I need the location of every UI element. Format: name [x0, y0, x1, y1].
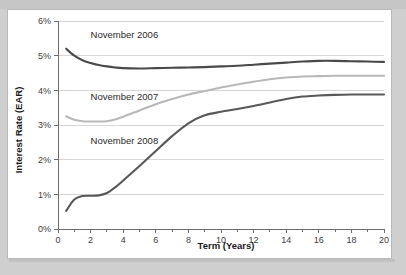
series-line-november-2006: [66, 49, 384, 69]
series-label-november-2006: November 2006: [91, 29, 159, 40]
series-annotations-group: November 2006November 2007November 2008: [91, 29, 159, 146]
y-tick-label: 4%: [38, 86, 51, 96]
x-tick-label: 16: [314, 235, 324, 245]
y-tick-label: 1%: [38, 190, 51, 200]
line-chart: 0%1%2%3%4%5%6% 02468101214161820 Novembe…: [8, 10, 391, 258]
x-axis-title: Term (Years): [198, 240, 255, 251]
y-tick-label: 6%: [38, 16, 51, 26]
series-line-november-2008: [66, 94, 384, 211]
top-gray-band: [0, 0, 406, 9]
series-label-november-2007: November 2007: [91, 91, 159, 102]
y-tick-label: 0%: [38, 224, 51, 234]
screenshot-page: 0%1%2%3%4%5%6% 02468101214161820 Novembe…: [0, 0, 406, 275]
x-tick-label: 18: [346, 235, 356, 245]
x-tick-label: 0: [55, 235, 60, 245]
tickmarks-group: [54, 21, 384, 233]
y-axis-title: Interest Rate (EAR): [13, 87, 24, 174]
x-tick-label: 8: [186, 235, 191, 245]
x-tick-label: 14: [281, 235, 291, 245]
figure-shadow: [9, 259, 395, 262]
x-tick-label: 2: [88, 235, 93, 245]
gridlines-group: [58, 21, 384, 229]
y-tick-label: 3%: [38, 120, 51, 130]
chart-figure-panel: 0%1%2%3%4%5%6% 02468101214161820 Novembe…: [7, 9, 392, 259]
x-tick-label: 6: [153, 235, 158, 245]
series-curves-group: [66, 49, 384, 211]
y-tick-labels-group: 0%1%2%3%4%5%6%: [38, 16, 51, 234]
x-tick-label: 20: [379, 235, 389, 245]
x-tick-label: 4: [121, 235, 126, 245]
y-tick-label: 2%: [38, 155, 51, 165]
y-tick-label: 5%: [38, 51, 51, 61]
series-label-november-2008: November 2008: [91, 135, 159, 146]
